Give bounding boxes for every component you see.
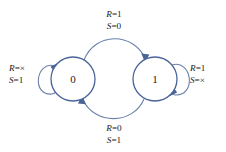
label-val: × (200, 75, 205, 85)
state-node-1[interactable]: 1 (133, 57, 177, 101)
transition-0-to-1-arc (84, 39, 145, 60)
transition-1-to-0-label-line-r: R=0 (105, 123, 122, 133)
state-diagram-canvas: 0 1 R=1 S=0 R=0 S=1 (0, 0, 226, 152)
label-val: 1 (117, 9, 122, 19)
label-val: 0 (117, 21, 122, 31)
transition-1-to-0-label: R=0 S=1 (105, 123, 122, 145)
transition-1-self-label: R=1 S=× (189, 63, 206, 85)
label-val: 1 (201, 63, 206, 73)
transition-0-self-label: R=× S=1 (8, 63, 25, 85)
state-node-1-label: 1 (152, 73, 158, 85)
state-node-0[interactable]: 0 (51, 57, 95, 101)
transition-0-to-1-label: R=1 S=0 (105, 9, 122, 31)
label-val: 1 (19, 75, 24, 85)
transition-1-to-0-label-line-s: S=1 (107, 135, 122, 145)
label-val: 0 (117, 123, 122, 133)
transition-1-self-label-line-r: R=1 (189, 63, 206, 73)
transition-0-self-label-line-r: R=× (8, 63, 25, 73)
transition-0-to-1-label-line-s: S=0 (107, 21, 122, 31)
label-val: 1 (117, 135, 122, 145)
state-node-0-label: 0 (70, 73, 76, 85)
transition-0-to-1 (84, 39, 149, 63)
transition-1-self-label-line-s: S=× (190, 75, 205, 85)
transition-0-to-1-label-line-r: R=1 (105, 9, 122, 19)
transition-1-to-0-arc (83, 99, 144, 119)
state-diagram-container: 0 1 R=1 S=0 R=0 S=1 (0, 0, 226, 152)
label-val: × (20, 63, 25, 73)
transition-1-to-0 (78, 96, 144, 119)
transition-0-self-label-line-s: S=1 (9, 75, 24, 85)
